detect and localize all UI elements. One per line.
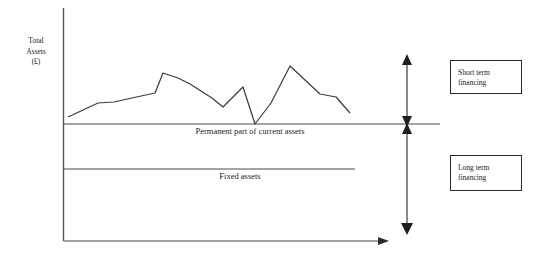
short-term-financing-box: Short term financing xyxy=(450,60,522,94)
short-term-arrow-up-arrowhead-icon xyxy=(402,54,412,65)
y-axis-label-line-1: Total xyxy=(14,36,58,47)
y-axis-label: Total Assets (£) xyxy=(14,36,58,68)
long-term-arrow-up-arrowhead-icon xyxy=(402,123,412,134)
fixed-assets-label: Fixed assets xyxy=(150,171,330,181)
long-term-financing-label: Long term financing xyxy=(458,163,489,183)
short-term-financing-label: Short term financing xyxy=(458,68,490,88)
short-term-financing-label-line-2: financing xyxy=(458,78,490,88)
diagram-canvas: Total Assets (£) Permanent part of curre… xyxy=(0,0,535,266)
long-term-financing-box: Long term financing xyxy=(450,155,522,191)
long-term-arrow-down-arrowhead-icon xyxy=(401,223,413,235)
long-term-financing-label-line-2: financing xyxy=(458,173,489,183)
y-axis-label-line-2: Assets xyxy=(14,47,58,58)
y-axis-label-line-3: (£) xyxy=(14,57,58,68)
x-axis-arrowhead-icon xyxy=(378,237,389,245)
long-term-financing-label-line-1: Long term xyxy=(458,163,489,173)
total-assets-zigzag-line xyxy=(68,66,350,124)
short-term-financing-label-line-1: Short term xyxy=(458,68,490,78)
permanent-current-assets-label: Permanent part of current assets xyxy=(120,126,380,136)
